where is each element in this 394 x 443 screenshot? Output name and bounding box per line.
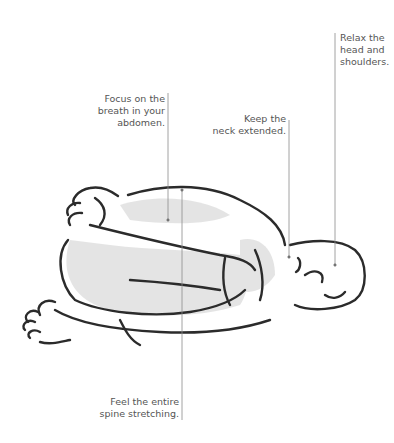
yoga-pose-illustration — [0, 0, 394, 443]
annotation-focus-line-1: Focus on the — [98, 93, 165, 105]
shading — [66, 198, 275, 315]
annotation-focus: Focus on the breath in your abdomen. — [98, 93, 165, 129]
annotation-spine: Feel the entire spine stretching. — [100, 396, 179, 420]
annotation-relax-line-1: Relax the — [340, 32, 389, 44]
annotation-focus-line-3: abdomen. — [98, 117, 165, 129]
annotation-neck: Keep the neck extended. — [213, 113, 286, 137]
annotation-relax: Relax the head and shoulders. — [340, 32, 389, 68]
annotation-relax-line-2: head and — [340, 44, 389, 56]
annotation-neck-line-2: neck extended. — [213, 125, 286, 137]
annotation-relax-line-3: shoulders. — [340, 56, 389, 68]
annotation-spine-line-1: Feel the entire — [100, 396, 179, 408]
annotation-neck-line-1: Keep the — [213, 113, 286, 125]
annotation-focus-line-2: breath in your — [98, 105, 165, 117]
annotation-spine-line-2: spine stretching. — [100, 408, 179, 420]
leader-lines — [167, 33, 336, 420]
